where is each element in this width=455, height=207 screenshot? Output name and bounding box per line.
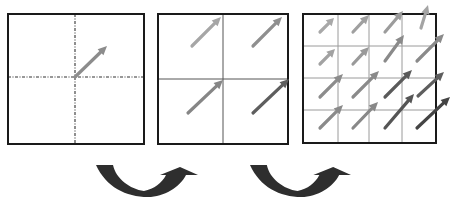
vector-arrow-icon [188,80,223,113]
panel-level-2 [303,5,450,143]
vector-arrow-icon [253,79,289,113]
vector-arrow-icon [75,46,107,77]
vector-arrow-icon [385,94,414,128]
curved-transition-arrow-icon [96,165,198,197]
panel-level-0 [8,14,144,144]
vector-arrow-icon [320,74,343,97]
vector-arrow-icon [385,35,404,61]
diagram-canvas [0,0,455,207]
vector-arrow-icon [320,49,335,64]
vector-arrow-icon [417,97,450,128]
transitions-group [96,165,351,197]
vector-arrow-icon [353,102,378,128]
vector-arrow-icon [417,34,444,61]
vector-arrow-icon [320,105,343,128]
vector-arrow-icon [253,17,282,46]
vector-arrow-icon [320,18,334,32]
panel-border [8,14,144,144]
vector-arrow-icon [192,17,221,46]
vector-arrow-icon [353,15,369,32]
panel-level-1 [158,14,289,144]
vector-arrow-icon [421,5,429,28]
vector-arrow-icon [353,71,379,97]
vector-arrow-icon [353,47,369,64]
vector-arrow-icon [385,70,412,97]
vector-arrow-icon [418,72,444,96]
curved-transition-arrow-icon [250,165,351,197]
grid-refinement-diagram [0,0,455,207]
panels-group [8,5,450,144]
